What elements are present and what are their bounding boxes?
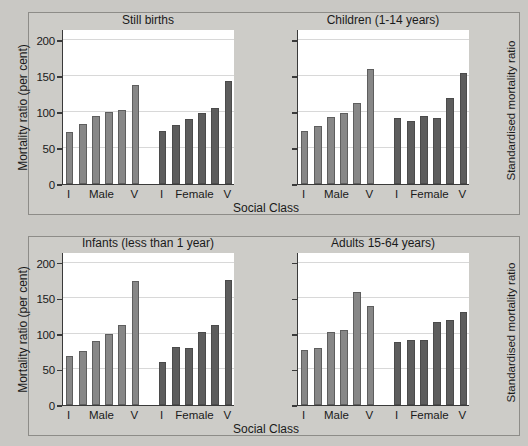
xtick-label-top-right-3: I (395, 188, 398, 200)
plot-area-bottom-right (297, 253, 469, 406)
xtick-label-top-left-1: Male (89, 188, 114, 200)
bar-bottom-right-male-II (314, 348, 322, 405)
xtick-label-bottom-right-3: I (395, 409, 398, 421)
ytick-mark-top-right-200 (292, 40, 297, 42)
bar-top-right-male-II (314, 126, 322, 184)
ytick-mark-bottom-left-200 (57, 263, 62, 265)
bar-top-right-female-V (460, 73, 468, 184)
bar-top-left-female-I (159, 131, 167, 184)
gridline-150 (63, 297, 234, 298)
ytick-mark-bottom-right-50 (292, 370, 297, 372)
xtick-label-bottom-right-2: V (366, 409, 374, 421)
bar-top-left-male-IIIN (92, 116, 100, 184)
bar-top-left-male-V (132, 85, 140, 184)
gridline-100 (298, 333, 469, 334)
bar-bottom-right-female-IV (446, 320, 454, 405)
mortality-ratio-figure: Still births050100150200IMaleVIFemaleVMo… (0, 0, 528, 446)
ytick-mark-top-right-100 (292, 112, 297, 114)
bar-bottom-right-male-IIIM (340, 330, 348, 405)
bar-bottom-left-female-IIIM (198, 332, 206, 405)
bar-top-left-female-IV (211, 108, 219, 184)
gridline-150 (63, 75, 234, 76)
bar-top-right-male-V (367, 69, 375, 184)
bar-top-right-female-I (394, 118, 402, 184)
gridline-200 (298, 39, 469, 40)
bar-bottom-left-male-V (132, 281, 140, 405)
xtick-label-top-right-2: V (366, 188, 374, 200)
bar-bottom-left-female-II (172, 347, 180, 405)
gridline-100 (63, 111, 234, 112)
bar-top-left-male-I (66, 132, 74, 184)
ytick-mark-bottom-right-0 (292, 405, 297, 407)
bar-bottom-left-female-IIIN (185, 348, 193, 405)
ylabel-right-bottom-right: Standardised mortality ratio (505, 253, 517, 412)
bar-bottom-right-male-I (301, 350, 309, 406)
plot-area-top-right (297, 30, 469, 185)
bar-top-left-male-IV (118, 110, 126, 184)
plot-area-top-left (62, 30, 234, 185)
gridline-50 (63, 368, 234, 369)
xtick-label-bottom-left-2: V (131, 409, 139, 421)
gridline-200 (63, 39, 234, 40)
xtick-label-top-left-0: I (67, 188, 70, 200)
plot-area-bottom-left (62, 253, 234, 406)
panel-title-bottom-right: Adults 15-64 years) (331, 236, 435, 250)
bar-top-right-male-IIIN (327, 117, 335, 184)
ytick-mark-top-left-150 (57, 76, 62, 78)
ytick-mark-bottom-left-100 (57, 334, 62, 336)
bar-top-left-female-II (172, 125, 180, 184)
bar-top-right-male-I (301, 131, 309, 184)
bar-top-right-female-IIIN (420, 116, 428, 184)
ylabel-right-top-right: Standardised mortality ratio (505, 30, 517, 191)
bar-bottom-right-male-IIIN (327, 332, 335, 405)
bar-bottom-right-male-V (367, 306, 375, 405)
xtick-label-bottom-left-5: V (224, 409, 232, 421)
xtick-label-bottom-left-3: I (160, 409, 163, 421)
gridline-50 (63, 147, 234, 148)
ytick-mark-bottom-left-150 (57, 299, 62, 301)
panel-title-top-right: Children (1-14 years) (327, 13, 440, 27)
xtick-label-top-left-2: V (131, 188, 139, 200)
bar-top-right-male-IIIM (340, 113, 348, 184)
xtick-label-top-right-4: Female (410, 188, 448, 200)
xtick-label-bottom-right-0: I (302, 409, 305, 421)
bar-bottom-left-male-II (79, 351, 87, 405)
xtick-label-top-right-0: I (302, 188, 305, 200)
xtick-label-top-right-5: V (459, 188, 467, 200)
bar-top-right-female-IV (446, 98, 454, 184)
bar-bottom-right-female-V (460, 312, 468, 405)
xtick-label-bottom-left-4: Female (175, 409, 213, 421)
gridline-200 (298, 262, 469, 263)
panel-title-bottom-left: Infants (less than 1 year) (82, 236, 214, 250)
bar-bottom-left-male-IIIN (92, 341, 100, 405)
ytick-mark-top-left-200 (57, 40, 62, 42)
bar-top-right-female-II (407, 121, 415, 184)
bar-top-right-male-IV (353, 103, 361, 184)
gridline-100 (63, 333, 234, 334)
xaxis-label-top: Social Class (233, 201, 299, 215)
bar-top-left-female-IIIM (198, 113, 206, 184)
bar-bottom-left-male-IIIM (105, 334, 113, 405)
ylabel-left-top-left: Mortality ratio (per cent) (16, 30, 30, 185)
ytick-mark-bottom-left-0 (57, 405, 62, 407)
ytick-mark-top-right-150 (292, 76, 297, 78)
ytick-mark-top-right-0 (292, 184, 297, 186)
ylabel-left-bottom-left: Mortality ratio (per cent) (16, 253, 30, 406)
bar-bottom-left-female-IV (211, 325, 219, 405)
bar-bottom-right-female-IIIM (433, 322, 441, 405)
ytick-mark-top-right-50 (292, 148, 297, 150)
gridline-50 (298, 368, 469, 369)
bar-bottom-right-female-II (407, 340, 415, 405)
xtick-label-top-left-5: V (224, 188, 232, 200)
ytick-mark-bottom-right-200 (292, 263, 297, 265)
xtick-label-top-left-3: I (160, 188, 163, 200)
bar-top-left-female-V (225, 81, 233, 184)
gridline-200 (63, 262, 234, 263)
xtick-label-top-right-1: Male (324, 188, 349, 200)
bar-top-right-female-IIIM (433, 118, 441, 184)
xtick-label-top-left-4: Female (175, 188, 213, 200)
bar-bottom-left-male-I (66, 356, 74, 405)
ytick-mark-top-left-100 (57, 112, 62, 114)
xtick-label-bottom-left-0: I (67, 409, 70, 421)
gridline-150 (298, 75, 469, 76)
